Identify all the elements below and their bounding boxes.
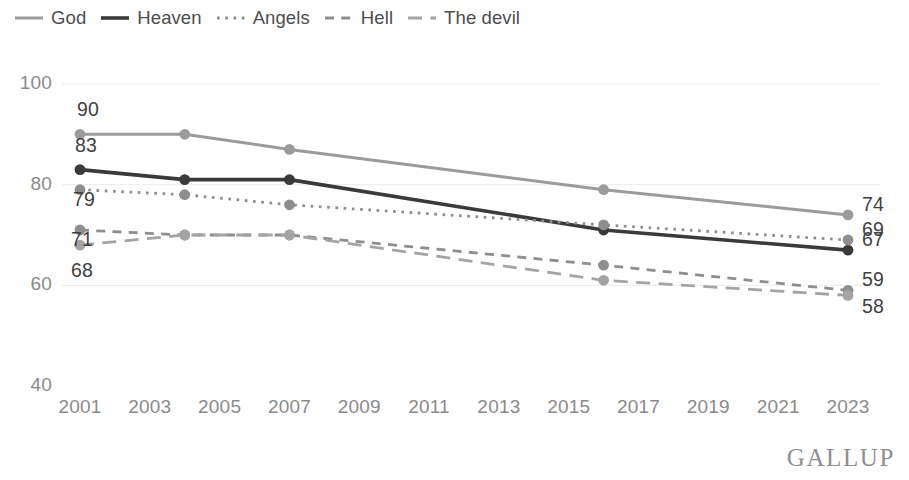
- data-point-god-2004: [179, 129, 190, 140]
- end-value-label-devil: 58: [862, 295, 884, 318]
- data-point-hell-2016: [598, 260, 609, 271]
- start-value-label-angels: 79: [73, 188, 95, 211]
- start-value-label-devil: 68: [71, 259, 93, 282]
- data-point-angels-2016: [598, 220, 609, 231]
- data-point-devil-2004: [179, 230, 190, 241]
- y-axis-tick-100: 100: [0, 72, 52, 94]
- start-value-label-hell: 71: [71, 228, 93, 251]
- data-point-angels-2004: [179, 189, 190, 200]
- series-line-god: [80, 134, 848, 215]
- series-line-heaven: [80, 170, 848, 251]
- x-axis-tick-2001: 2001: [45, 396, 115, 418]
- end-value-label-hell: 59: [862, 268, 884, 291]
- chart-root: GodHeavenAngelsHellThe devil 10080604020…: [0, 0, 909, 480]
- data-point-devil-2016: [598, 275, 609, 286]
- end-value-label-angels: 69: [862, 218, 884, 241]
- x-axis-tick-2007: 2007: [254, 396, 324, 418]
- data-point-heaven-2001: [75, 164, 86, 175]
- x-axis-tick-2011: 2011: [394, 396, 464, 418]
- series-line-angels: [80, 190, 848, 240]
- gallup-logo: GALLUP: [787, 444, 895, 472]
- y-axis-tick-40: 40: [0, 374, 52, 396]
- data-point-devil-2007: [284, 230, 295, 241]
- data-point-angels-2023: [843, 235, 854, 246]
- y-axis-tick-60: 60: [0, 273, 52, 295]
- end-value-label-god: 74: [862, 193, 884, 216]
- data-point-heaven-2007: [284, 174, 295, 185]
- data-point-god-2023: [843, 210, 854, 221]
- series-group: [75, 129, 854, 301]
- x-axis-tick-2003: 2003: [115, 396, 185, 418]
- x-axis-tick-2015: 2015: [534, 396, 604, 418]
- data-point-angels-2007: [284, 199, 295, 210]
- plot-area: 1008060402001200320052007200920112013201…: [0, 0, 909, 480]
- data-point-god-2016: [598, 184, 609, 195]
- y-axis-tick-80: 80: [0, 173, 52, 195]
- x-axis-tick-2005: 2005: [185, 396, 255, 418]
- x-axis-tick-2023: 2023: [813, 396, 883, 418]
- data-point-devil-2023: [843, 290, 854, 301]
- start-value-label-heaven: 83: [75, 134, 97, 157]
- series-line-devil: [80, 235, 848, 295]
- x-axis-tick-2009: 2009: [324, 396, 394, 418]
- x-axis-tick-2021: 2021: [743, 396, 813, 418]
- data-point-god-2007: [284, 144, 295, 155]
- data-point-heaven-2004: [179, 174, 190, 185]
- data-point-heaven-2023: [843, 245, 854, 256]
- start-value-label-god: 90: [77, 98, 99, 121]
- x-axis-tick-2017: 2017: [604, 396, 674, 418]
- x-axis-tick-2019: 2019: [673, 396, 743, 418]
- x-axis-tick-2013: 2013: [464, 396, 534, 418]
